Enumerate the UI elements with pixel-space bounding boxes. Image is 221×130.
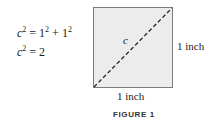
side-label-right: 1 inch [177,40,204,52]
side-label-bottom: 1 inch [117,90,144,102]
square-diagram [0,0,221,130]
diagonal-label: c [123,34,128,46]
figure-caption: FIGURE 1 [113,110,155,119]
